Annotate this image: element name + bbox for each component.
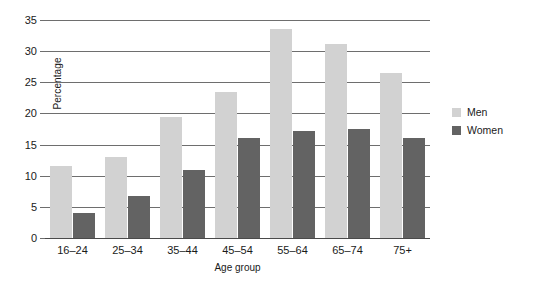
- bar-men-75+: [380, 73, 402, 238]
- bar-women-55-64: [293, 131, 315, 238]
- x-axis-title: Age group: [45, 262, 430, 273]
- y-axis-tick-label: 30: [25, 45, 37, 57]
- y-axis-tick-label: 20: [25, 107, 37, 119]
- bars-layer: [45, 20, 430, 238]
- y-axis-tick-label: 15: [25, 139, 37, 151]
- y-axis-tick-label: 25: [25, 76, 37, 88]
- y-axis-tick: [40, 238, 45, 239]
- x-axis-tick-label: 55–64: [277, 244, 308, 256]
- bar-women-65-74: [348, 129, 370, 238]
- legend-swatch-icon: [452, 126, 461, 135]
- y-axis-tick-label: 5: [31, 201, 37, 213]
- bar-women-35-44: [183, 170, 205, 239]
- legend-swatch-icon: [452, 108, 461, 117]
- bar-men-16-24: [50, 166, 72, 238]
- legend-item-women: Women: [452, 124, 503, 136]
- chart-legend: MenWomen: [452, 106, 503, 142]
- bar-group: [320, 20, 375, 238]
- bar-group: [265, 20, 320, 238]
- bar-group: [45, 20, 100, 238]
- y-axis-tick-label: 35: [25, 14, 37, 26]
- bar-group: [100, 20, 155, 238]
- bar-men-45-54: [215, 92, 237, 238]
- x-axis-tick-label: 16–24: [57, 244, 88, 256]
- gridline: [45, 238, 430, 239]
- bar-women-16-24: [73, 213, 95, 238]
- bar-women-25-34: [128, 196, 150, 238]
- bar-men-65-74: [325, 44, 347, 238]
- bar-group: [210, 20, 265, 238]
- bar-group: [155, 20, 210, 238]
- bar-group: [375, 20, 430, 238]
- y-axis-tick-label: 0: [31, 232, 37, 244]
- bar-women-75+: [403, 138, 425, 238]
- x-axis-tick-label: 75+: [393, 244, 412, 256]
- plot-area: 05101520253035: [45, 20, 430, 238]
- y-axis-tick-label: 10: [25, 170, 37, 182]
- bar-men-55-64: [270, 29, 292, 238]
- legend-label: Women: [467, 124, 503, 136]
- bar-men-25-34: [105, 157, 127, 238]
- x-axis-tick-label: 45–54: [222, 244, 253, 256]
- x-axis-tick-label: 25–34: [112, 244, 143, 256]
- x-axis-tick-label: 65–74: [332, 244, 363, 256]
- bar-men-35-44: [160, 117, 182, 238]
- bar-women-45-54: [238, 138, 260, 238]
- x-axis-tick-label: 35–44: [167, 244, 198, 256]
- legend-label: Men: [467, 106, 487, 118]
- legend-item-men: Men: [452, 106, 503, 118]
- bar-chart: Percentage 05101520253035 16–2425–3435–4…: [0, 0, 549, 284]
